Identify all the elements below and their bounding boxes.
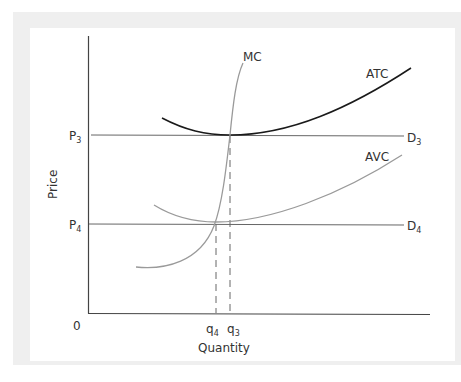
atc-label: ATC — [366, 67, 388, 81]
mc-curve — [136, 63, 243, 268]
d3-label: D3 — [407, 131, 421, 147]
cost-curves-chart: MC ATC AVC D3 D4 P3 P4 q4 q3 0 Quantity … — [0, 0, 461, 382]
x-axis — [88, 314, 430, 315]
p4-label: P4 — [69, 218, 81, 234]
avc-curve — [154, 155, 402, 222]
origin-label: 0 — [73, 319, 81, 333]
mc-label: MC — [243, 50, 262, 64]
q3-label: q3 — [227, 322, 240, 338]
p3-label: P3 — [69, 129, 81, 145]
demand-line-d4 — [89, 224, 404, 225]
y-axis-title: Price — [46, 170, 60, 199]
avc-label: AVC — [365, 150, 389, 164]
demand-line-d3 — [91, 135, 404, 136]
q4-label: q4 — [206, 322, 219, 338]
x-axis-title: Quantity — [198, 341, 250, 355]
d4-label: D4 — [407, 219, 421, 235]
